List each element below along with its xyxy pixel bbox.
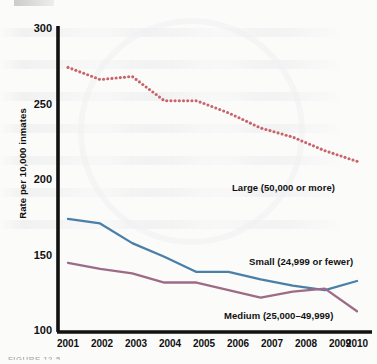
x-tick-2007: 2007	[255, 338, 289, 349]
series-line-0	[66, 66, 358, 163]
y-tick-100: 100	[18, 324, 52, 336]
series-line-1	[68, 219, 357, 290]
y-axis-label: Rate per 10,000 inmates	[17, 104, 28, 224]
series-label-medium: Medium (25,000–49,999)	[224, 310, 333, 321]
series-label-large: Large (50,000 or more)	[232, 182, 335, 193]
series-label-small: Small (24,999 or fewer)	[249, 256, 353, 267]
y-tick-300: 300	[18, 22, 52, 34]
x-tick-2010: 2010	[340, 338, 374, 349]
x-tick-2004: 2004	[153, 338, 187, 349]
x-tick-2008: 2008	[289, 338, 323, 349]
x-tick-2003: 2003	[119, 338, 153, 349]
line-chart: 300 250 200 150 100 Rate per 10,000 inma…	[0, 0, 377, 364]
x-tick-2002: 2002	[85, 338, 119, 349]
x-tick-2001: 2001	[51, 338, 85, 349]
x-tick-2006: 2006	[221, 338, 255, 349]
x-tick-2005: 2005	[187, 338, 221, 349]
y-tick-150: 150	[18, 249, 52, 261]
series-line-2	[68, 263, 357, 311]
